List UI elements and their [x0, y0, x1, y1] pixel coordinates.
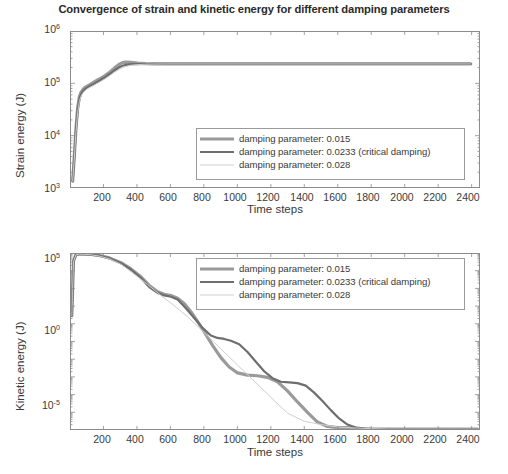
legend-item-strain-2[interactable]: damping parameter: 0.0233 (critical damp…: [200, 145, 460, 158]
legend-label: damping parameter: 0.015: [239, 133, 350, 144]
ytick-strain-4: 104: [26, 130, 60, 141]
axis-label-y-strain: Strain energy (J): [14, 93, 26, 178]
legend-line-icon: [200, 147, 234, 157]
ytick-kinetic-neg5: 10-5: [20, 400, 60, 411]
legend-line-icon: [200, 160, 234, 170]
ytick-strain-6: 106: [26, 24, 60, 35]
figure-container: Convergence of strain and kinetic energy…: [0, 0, 508, 474]
legend-label: damping parameter: 0.028: [239, 159, 350, 170]
panel-strain-energy: Strain energy (J) 103 104 105 106 200 40…: [0, 0, 508, 215]
legend-kinetic[interactable]: damping parameter: 0.015 damping paramet…: [196, 258, 465, 310]
axis-label-x-kinetic: Time steps: [200, 446, 350, 458]
xtick-kinetic: 2400: [448, 434, 488, 445]
ytick-kinetic-0: 100: [20, 325, 60, 336]
legend-line-icon: [200, 264, 234, 274]
legend-label: damping parameter: 0.0233 (critical damp…: [239, 146, 430, 157]
legend-item-strain-1[interactable]: damping parameter: 0.015: [200, 132, 460, 145]
legend-item-strain-3[interactable]: damping parameter: 0.028: [200, 158, 460, 171]
ytick-strain-5: 105: [26, 77, 60, 88]
legend-line-icon: [200, 290, 234, 300]
panel-kinetic-energy: Kinetic energy (J) 10-5 100 105 200 400 …: [0, 215, 508, 474]
legend-strain[interactable]: damping parameter: 0.015 damping paramet…: [196, 128, 465, 180]
legend-line-icon: [200, 134, 234, 144]
ytick-kinetic-5: 105: [20, 253, 60, 264]
ytick-strain-3: 103: [26, 183, 60, 194]
xtick-strain: 2400: [448, 192, 488, 203]
legend-item-kinetic-1[interactable]: damping parameter: 0.015: [200, 262, 460, 275]
legend-label: damping parameter: 0.028: [239, 289, 350, 300]
axis-label-x-strain: Time steps: [200, 203, 350, 215]
legend-label: damping parameter: 0.015: [239, 263, 350, 274]
legend-item-kinetic-2[interactable]: damping parameter: 0.0233 (critical damp…: [200, 275, 460, 288]
legend-line-icon: [200, 277, 234, 287]
legend-label: damping parameter: 0.0233 (critical damp…: [239, 276, 430, 287]
legend-item-kinetic-3[interactable]: damping parameter: 0.028: [200, 288, 460, 301]
